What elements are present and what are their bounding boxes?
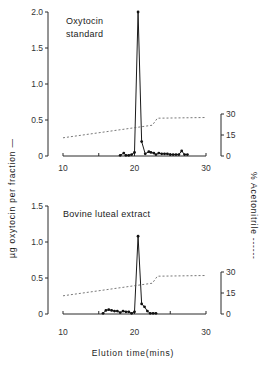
x-tick-label: 20: [130, 163, 140, 173]
data-point-marker: [137, 235, 140, 238]
y-tick-label: 1.0: [31, 79, 43, 89]
y2-tick-label: 30: [226, 109, 236, 119]
y-axis-right-label: % Acetonitrile ------: [249, 172, 259, 260]
y-tick-label: 2.0: [31, 7, 43, 17]
x-tick-label: 20: [130, 327, 140, 337]
data-point-marker: [130, 312, 133, 315]
x-tick-label: 10: [58, 163, 68, 173]
figure-canvas: 00.51.01.52.010203001530Oxytocinstandard…: [0, 0, 266, 366]
data-point-marker: [127, 154, 130, 157]
data-point-marker: [152, 312, 155, 315]
data-point-marker: [137, 11, 140, 14]
data-point-marker: [122, 310, 125, 313]
oxytocin-line: [103, 236, 156, 313]
data-point-marker: [130, 153, 133, 156]
data-point-marker: [177, 153, 180, 156]
data-point-marker: [183, 153, 186, 156]
data-point-marker: [155, 153, 158, 156]
data-point-marker: [140, 140, 143, 143]
data-point-marker: [143, 305, 146, 308]
data-point-marker: [133, 310, 136, 313]
oxytocin-line: [120, 12, 187, 155]
data-point-marker: [133, 151, 136, 154]
data-point-marker: [105, 309, 108, 312]
x-tick-label: 30: [201, 163, 211, 173]
x-tick-label: 30: [201, 327, 211, 337]
data-point-marker: [107, 308, 110, 311]
data-point-marker: [119, 311, 122, 314]
data-point-marker: [149, 312, 152, 315]
y-tick-label: 1.0: [31, 237, 43, 247]
data-point-marker: [150, 151, 153, 154]
data-point-marker: [169, 153, 172, 156]
data-point-marker: [116, 310, 119, 313]
chart-panel-2: 00.51.01.510203001530Bovine luteal extra…: [31, 201, 236, 337]
data-point-marker: [163, 152, 166, 155]
chart-panel-1: 00.51.01.52.010203001530Oxytocinstandard: [31, 7, 236, 173]
chart-title: Oxytocin: [66, 16, 103, 26]
x-axis-label: Elution time(mins): [92, 348, 174, 358]
y2-tick-label: 30: [226, 267, 236, 277]
data-point-marker: [122, 152, 125, 155]
data-point-marker: [119, 154, 122, 157]
y-tick-label: 0.5: [31, 273, 43, 283]
y-axis-left-label: µg oxytocin per fraction —: [7, 138, 17, 258]
data-point-marker: [125, 154, 128, 157]
y-tick-label: 0.5: [31, 115, 43, 125]
y2-tick-label: 0: [226, 309, 231, 319]
data-point-marker: [127, 310, 130, 313]
data-point-marker: [180, 150, 183, 153]
data-point-marker: [144, 152, 147, 155]
data-point-marker: [160, 152, 163, 155]
y-tick-label: 1.5: [31, 201, 43, 211]
x-tick-label: 10: [58, 327, 68, 337]
acetonitrile-gradient-line: [63, 276, 206, 296]
data-point-marker: [102, 312, 105, 315]
data-point-marker: [155, 312, 158, 315]
y-tick-label: 0: [38, 309, 43, 319]
data-point-marker: [186, 153, 189, 156]
data-point-marker: [113, 310, 116, 313]
data-point-marker: [110, 309, 113, 312]
data-point-marker: [175, 153, 178, 156]
chart-title: standard: [66, 29, 103, 39]
chart-title: Bovine luteal extract: [63, 209, 151, 219]
data-point-marker: [140, 303, 143, 306]
y-tick-label: 0: [38, 151, 43, 161]
data-point-marker: [146, 310, 149, 313]
data-point-marker: [166, 152, 169, 155]
y2-tick-label: 15: [226, 130, 236, 140]
data-point-marker: [125, 310, 128, 313]
y-tick-label: 1.5: [31, 43, 43, 53]
y2-tick-label: 0: [226, 151, 231, 161]
data-point-marker: [157, 152, 160, 155]
y2-tick-label: 15: [226, 288, 236, 298]
data-point-marker: [172, 153, 175, 156]
